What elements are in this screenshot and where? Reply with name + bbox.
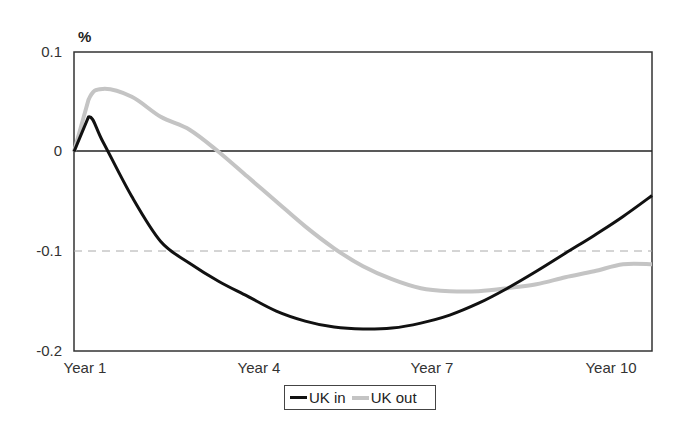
series-uk-out-line [74,89,652,292]
line-chart: % 0.1 0 -0.1 -0.2 Year 1 Year 4 Year 7 Y… [0,0,681,442]
series-uk-in-line [74,117,652,329]
plot-frame [74,52,652,351]
x-tick-label: Year 7 [411,359,454,376]
legend: UK in UK out [284,385,436,410]
y-tick-label: -0.1 [36,242,62,259]
legend-item-uk-in: UK in [290,389,346,406]
legend-item-uk-out: UK out [352,389,417,406]
x-tick-label: Year 4 [238,359,281,376]
y-unit-label: % [78,28,91,45]
y-tick-label: 0.1 [41,43,62,60]
legend-swatch-uk-out [352,396,369,400]
legend-label: UK in [309,389,346,406]
legend-label: UK out [371,389,417,406]
legend-swatch-uk-in [290,396,307,399]
y-tick-label: 0 [54,142,62,159]
x-tick-label: Year 10 [585,359,636,376]
y-tick-label: -0.2 [36,342,62,359]
x-tick-label: Year 1 [64,359,107,376]
